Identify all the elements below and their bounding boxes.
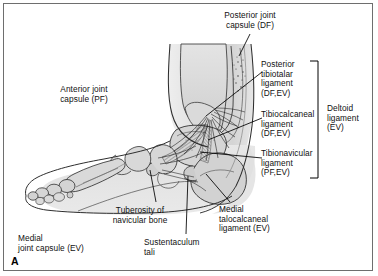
- label-anterior-joint-capsule: Anterior joint capsule (PF): [30, 85, 138, 104]
- label-tuberosity-of-navicular-bone: Tuberosity of navicular bone: [88, 206, 192, 225]
- label-tibionavicular-ligament: Tibionavicular ligament (PF,EV): [261, 149, 325, 178]
- label-medial-joint-capsule: Medial joint capsule (EV): [18, 234, 130, 253]
- anatomy-figure-panel: Posterior joint capsule (DF) Anterior jo…: [0, 0, 378, 276]
- label-deltoid-ligament: Deltoid ligament (EV): [327, 104, 375, 133]
- label-posterior-tibiotalar-ligament: Posterior tibiotalar ligament (DF,EV): [261, 60, 321, 98]
- panel-letter: A: [11, 255, 19, 267]
- label-posterior-joint-capsule: Posterior joint capsule (DF): [196, 11, 304, 30]
- label-medial-talocalcaneal-ligament: Medial talocalcaneal ligament (EV): [219, 205, 297, 234]
- label-tibiocalcaneal-ligament: Tibiocalcaneal ligament (DF,EV): [261, 110, 325, 139]
- label-sustentaculum-tali: Sustentaculum tali: [144, 238, 222, 257]
